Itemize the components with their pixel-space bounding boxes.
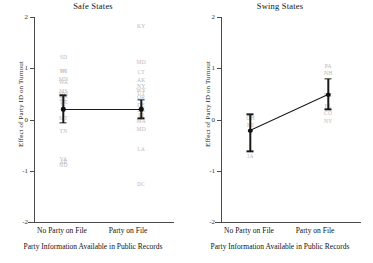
y-tick-label-safe: 0 bbox=[14, 116, 28, 124]
y-tick-swing bbox=[217, 222, 221, 223]
y-tick-swing bbox=[217, 171, 221, 172]
panel-title-swing-states: Swing States bbox=[187, 1, 373, 11]
y-tick-swing bbox=[217, 120, 221, 121]
confidence-interval-cap bbox=[60, 122, 67, 123]
state-label: MD bbox=[136, 59, 145, 65]
y-axis-title-safe: Effect of Party ID on Turnout bbox=[17, 34, 25, 174]
confidence-interval-cap bbox=[138, 99, 145, 100]
state-label: NV bbox=[324, 118, 332, 124]
state-label: KY bbox=[137, 23, 145, 29]
confidence-interval-cap bbox=[247, 151, 254, 152]
state-label: ND bbox=[59, 162, 67, 168]
state-label: DC bbox=[137, 181, 145, 187]
y-tick-safe bbox=[30, 222, 34, 223]
state-label: WA bbox=[59, 79, 68, 85]
y-tick-safe bbox=[30, 68, 34, 69]
y-tick-label-swing: -2 bbox=[201, 218, 215, 226]
y-tick-swing bbox=[217, 68, 221, 69]
two-panel-figure: Safe States Effect of Party ID on Turnou… bbox=[0, 0, 373, 263]
x-category-party-swing: Party on File bbox=[275, 226, 355, 235]
state-label: LA bbox=[137, 146, 145, 152]
state-label: MD bbox=[136, 126, 145, 132]
state-label: TN bbox=[60, 128, 68, 134]
state-label: NH bbox=[324, 70, 332, 76]
y-tick-label-safe: -2 bbox=[14, 218, 28, 226]
y-tick-safe bbox=[30, 17, 34, 18]
trend-connector-line bbox=[250, 94, 328, 131]
state-label: AK bbox=[137, 77, 145, 83]
panel-safe-states: Safe States Effect of Party ID on Turnou… bbox=[0, 0, 186, 263]
state-label: SD bbox=[60, 54, 68, 60]
y-tick-safe bbox=[30, 120, 34, 121]
confidence-interval-cap bbox=[247, 114, 254, 115]
x-category-party-safe: Party on File bbox=[88, 226, 168, 235]
y-tick-label-safe: 1 bbox=[14, 64, 28, 72]
panel-swing-states: Swing States Effect of Party ID on Turno… bbox=[187, 0, 373, 263]
y-tick-label-swing: 2 bbox=[201, 13, 215, 21]
y-tick-label-swing: -1 bbox=[201, 167, 215, 175]
x-axis-line-safe bbox=[28, 222, 174, 223]
state-label: IN bbox=[60, 68, 66, 74]
y-tick-label-safe: 2 bbox=[14, 13, 28, 21]
state-label: CO bbox=[324, 110, 332, 116]
trend-connector-line bbox=[63, 109, 141, 110]
point-estimate-marker bbox=[248, 129, 252, 133]
plot-area-swing: OHMIIAPANHNCFLCONV bbox=[221, 17, 355, 222]
x-axis-title-swing: Party Information Available in Public Re… bbox=[187, 242, 373, 251]
y-tick-label-swing: 0 bbox=[201, 116, 215, 124]
y-tick-label-swing: 1 bbox=[201, 64, 215, 72]
point-estimate-marker bbox=[61, 107, 65, 111]
state-label: CT bbox=[137, 69, 145, 75]
confidence-interval-cap bbox=[138, 118, 145, 119]
state-label: IA bbox=[247, 153, 253, 159]
confidence-interval-cap bbox=[60, 95, 67, 96]
confidence-interval-cap bbox=[325, 78, 332, 79]
plot-area-safe: SDWIINMNWAMSMOGAALTXILMTTNVAARNDKYMDCTAK… bbox=[34, 17, 168, 222]
y-tick-label-safe: -1 bbox=[14, 167, 28, 175]
confidence-interval-bar bbox=[250, 114, 251, 151]
y-tick-swing bbox=[217, 17, 221, 18]
confidence-interval-cap bbox=[325, 109, 332, 110]
panel-title-safe-states: Safe States bbox=[0, 1, 186, 11]
y-axis-title-swing: Effect of Party ID on Turnout bbox=[204, 34, 212, 174]
state-label: PA bbox=[325, 63, 332, 69]
x-axis-title-safe: Party Information Available in Public Re… bbox=[0, 242, 186, 251]
x-axis-line-swing bbox=[215, 222, 361, 223]
y-tick-safe bbox=[30, 171, 34, 172]
